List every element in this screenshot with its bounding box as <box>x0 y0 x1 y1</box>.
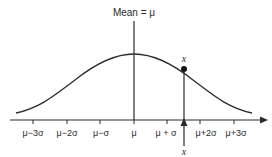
mean-label: Mean = μ <box>113 7 155 18</box>
svg-text:μ: μ <box>131 128 136 138</box>
tick-labels: μ−3σ μ−2σ μ−σ μ μ + σ μ+2σ μ+3σ <box>22 128 246 138</box>
normal-distribution-diagram: Mean = μ x x μ−3σ μ−2σ μ−σ μ μ + σ μ+2σ … <box>0 0 272 157</box>
axis-point-label: x <box>181 146 187 157</box>
point-label: x <box>181 53 187 64</box>
up-arrow-icon <box>181 118 188 126</box>
x-axis-arrow-icon <box>260 117 268 124</box>
point-marker <box>181 66 187 72</box>
svg-text:μ−σ: μ−σ <box>93 128 109 138</box>
svg-text:μ + σ: μ + σ <box>156 128 177 138</box>
svg-text:μ+2σ: μ+2σ <box>195 128 216 138</box>
svg-text:μ+3σ: μ+3σ <box>225 128 246 138</box>
svg-text:μ−3σ: μ−3σ <box>22 128 43 138</box>
svg-text:μ−2σ: μ−2σ <box>56 128 77 138</box>
